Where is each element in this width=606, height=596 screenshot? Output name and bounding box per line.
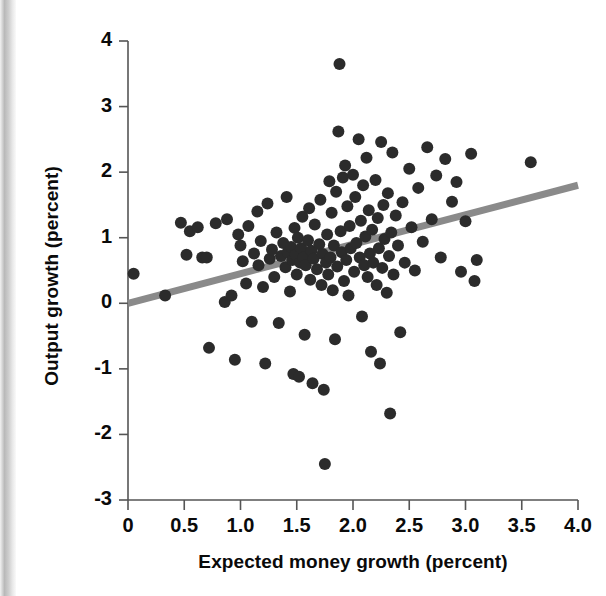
scatter-point — [318, 384, 330, 396]
scatter-point — [330, 186, 342, 198]
scatter-point — [268, 271, 280, 283]
scatter-point — [309, 219, 321, 231]
scatter-point — [344, 220, 356, 232]
scatter-point — [357, 179, 369, 191]
scatter-point — [525, 156, 537, 168]
scatter-point — [465, 148, 477, 160]
x-tick-label: 2.5 — [382, 514, 436, 537]
x-tick-label: 1.0 — [214, 514, 268, 537]
scatter-point — [203, 342, 215, 354]
scatter-point — [159, 289, 171, 301]
y-tick-label: -3 — [72, 487, 112, 510]
x-tick-label: 4.0 — [551, 514, 605, 537]
scatter-point — [361, 152, 373, 164]
scatter-point — [376, 262, 388, 274]
scatter-point — [327, 284, 339, 296]
scatter-point — [397, 196, 409, 208]
scatter-point — [257, 281, 269, 293]
scatter-point — [366, 224, 378, 236]
x-tick-label: 3.0 — [439, 514, 493, 537]
scatter-point — [417, 236, 429, 248]
scatter-point — [446, 196, 458, 208]
scatter-point — [339, 160, 351, 172]
scatter-point — [262, 198, 274, 210]
scatter-point — [348, 266, 360, 278]
scatter-point — [347, 169, 359, 181]
scatter-point — [291, 268, 303, 280]
scatter-point — [235, 240, 247, 252]
scatter-point — [365, 346, 377, 358]
scatter-point — [316, 279, 328, 291]
scatter-point — [406, 221, 418, 233]
scatter-point — [430, 169, 442, 181]
scatter-point — [307, 377, 319, 389]
data-points — [128, 58, 537, 470]
scatter-point — [439, 153, 451, 165]
scatter-point — [371, 279, 383, 291]
scatter-point — [384, 407, 396, 419]
scatter-point — [382, 187, 394, 199]
x-tick-label: 2.0 — [326, 514, 380, 537]
scatter-point — [242, 220, 254, 232]
scatter-point — [192, 221, 204, 233]
scatter-point — [201, 251, 213, 263]
y-axis-title: Output growth (percent) — [41, 106, 63, 446]
y-tick-label: 3 — [72, 94, 112, 117]
scatter-point — [455, 266, 467, 278]
y-tick-label: 2 — [72, 159, 112, 182]
scatter-point — [386, 146, 398, 158]
scatter-point — [363, 204, 375, 216]
x-tick-label: 3.5 — [495, 514, 549, 537]
x-tick-label: 1.5 — [270, 514, 324, 537]
scatter-point — [353, 133, 365, 145]
scatter-point — [284, 285, 296, 297]
scatter-point — [128, 268, 140, 280]
scatter-point — [394, 326, 406, 338]
scatter-point — [343, 289, 355, 301]
y-tick-label: -1 — [72, 356, 112, 379]
scatter-chart-figure: Output growth (percent) Expected money g… — [0, 0, 606, 596]
scatter-point — [340, 254, 352, 266]
axes — [119, 41, 578, 510]
scatter-point — [421, 141, 433, 153]
scatter-point — [374, 358, 386, 370]
scatter-point — [210, 217, 222, 229]
scatter-point — [355, 215, 367, 227]
scatter-point — [292, 232, 304, 244]
y-tick-label: 1 — [72, 225, 112, 248]
x-axis-title: Expected money growth (percent) — [128, 551, 578, 573]
scatter-point — [451, 176, 463, 188]
scatter-point — [314, 194, 326, 206]
scatter-point — [337, 171, 349, 183]
scatter-point — [469, 275, 481, 287]
scatter-point — [334, 58, 346, 70]
scatter-point — [237, 255, 249, 267]
y-tick-label: 0 — [72, 290, 112, 313]
scatter-point — [377, 199, 389, 211]
scatter-point — [390, 209, 402, 221]
y-tick-label: 4 — [72, 28, 112, 51]
scatter-point — [299, 329, 311, 341]
scatter-point — [362, 271, 374, 283]
scatter-point — [302, 234, 314, 246]
scatter-point — [303, 202, 315, 214]
scatter-point — [381, 287, 393, 299]
y-tick-label: -2 — [72, 421, 112, 444]
scatter-point — [229, 354, 241, 366]
scatter-point — [293, 371, 305, 383]
scatter-point — [372, 212, 384, 224]
scatter-point — [248, 247, 260, 259]
scatter-point — [356, 310, 368, 322]
scatter-point — [338, 275, 350, 287]
x-tick-label: 0 — [101, 514, 155, 537]
scatter-point — [259, 358, 271, 370]
scatter-point — [392, 240, 404, 252]
scatter-point — [240, 278, 252, 290]
scatter-point — [255, 235, 267, 247]
scatter-point — [412, 182, 424, 194]
scatter-point — [349, 191, 361, 203]
scatter-point — [326, 207, 338, 219]
scatter-point — [383, 250, 395, 262]
scatter-point — [246, 316, 258, 328]
scatter-point — [304, 274, 316, 286]
